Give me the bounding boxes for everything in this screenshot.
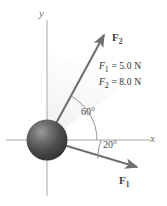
origin-sphere	[27, 120, 68, 161]
vector-f1-subscript: 1	[126, 180, 130, 189]
legend-value: 8.0 N	[119, 77, 141, 87]
angle-label-20: 20°	[103, 140, 117, 150]
legend-equals: =	[109, 61, 119, 71]
vector-f2-label: F2	[112, 32, 122, 46]
vector-f1-label: F1	[119, 175, 129, 189]
legend-row: F2=8.0 N	[99, 76, 141, 92]
force-diagram-figure: y x F2 F1 60° 20° F1=5.0 N F2=8.0 N	[0, 0, 167, 206]
vector-f2-subscript: 2	[119, 37, 123, 46]
vector-f1-symbol: F	[119, 174, 126, 186]
force-magnitude-legend: F1=5.0 N F2=8.0 N	[99, 60, 141, 93]
vector-f2-symbol: F	[112, 31, 119, 43]
angle-label-60: 60°	[81, 107, 95, 117]
x-axis-label: x	[150, 133, 155, 144]
diagram-canvas	[0, 0, 167, 206]
legend-equals: =	[109, 77, 119, 87]
legend-value: 5.0 N	[119, 61, 141, 71]
legend-row: F1=5.0 N	[99, 60, 141, 76]
y-axis-label: y	[39, 8, 44, 19]
